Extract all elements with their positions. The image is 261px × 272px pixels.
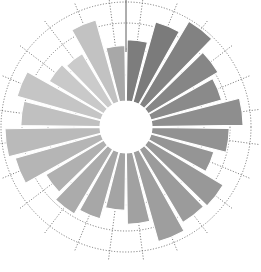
center-hole xyxy=(100,101,152,153)
center-hole-circle xyxy=(100,101,152,153)
polar-bar-chart xyxy=(0,0,261,272)
polar-chart-canvas xyxy=(0,0,261,272)
